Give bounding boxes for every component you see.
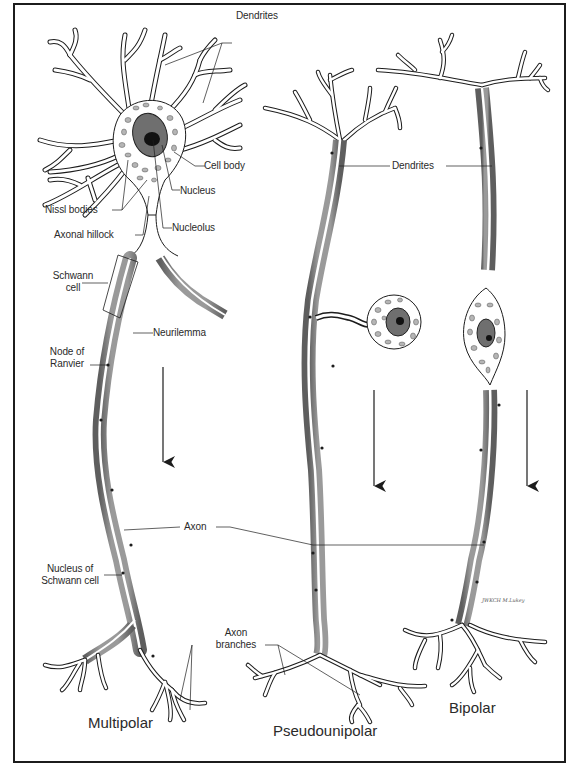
bipolar-nucleolus (486, 335, 492, 341)
multipolar-axon-myelin (100, 258, 140, 650)
multipolar-neuron (40, 30, 245, 720)
neuron-diagram (0, 0, 573, 769)
label-nucleus-of-schwann-cell-line1: Nucleus of (36, 563, 104, 575)
label-node-of-ranvier-line2: Ranvier (44, 358, 90, 370)
title-multipolar: Multipolar (88, 714, 153, 731)
label-schwann-cell: Schwann cell (50, 270, 96, 294)
label-schwann-cell-line1: Schwann (50, 270, 96, 282)
bipolar-neuron (378, 35, 548, 692)
label-node-of-ranvier: Node of Ranvier (44, 346, 90, 370)
label-axon-branches-line1: Axon (210, 627, 262, 639)
label-nucleus-of-schwann-cell: Nucleus of Schwann cell (36, 563, 104, 587)
label-nucleolus: Nucleolus (172, 222, 215, 234)
title-bipolar: Bipolar (449, 699, 496, 716)
label-cell-body: Cell body (204, 160, 245, 172)
label-axon: Axon (184, 521, 206, 533)
bipolar-nucleus (477, 319, 495, 347)
label-nissl-bodies: Nissl bodies (45, 204, 98, 216)
label-dendrites-pseudounipolar-bipolar: Dendrites (392, 160, 434, 172)
artist-signature: JWKCH M.Lukey (482, 597, 525, 603)
pseudounipolar-nucleolus (396, 317, 404, 325)
label-dendrites-multipolar: Dendrites (236, 10, 278, 22)
label-axon-branches-line2: branches (210, 639, 262, 651)
label-axonal-hillock: Axonal hillock (54, 229, 114, 241)
label-axon-branches: Axon branches (210, 627, 262, 651)
label-neurilemma: Neurilemma (153, 327, 206, 339)
label-schwann-cell-line2: cell (50, 282, 96, 294)
multipolar-nucleolus (144, 132, 160, 146)
label-nucleus-of-schwann-cell-line2: Schwann cell (36, 575, 104, 587)
signal-direction-arrows (163, 367, 527, 486)
label-node-of-ranvier-line1: Node of (44, 346, 90, 358)
pseudounipolar-axon-myelin (309, 140, 340, 655)
label-nucleus: Nucleus (180, 185, 215, 197)
title-pseudounipolar: Pseudounipolar (273, 722, 377, 739)
